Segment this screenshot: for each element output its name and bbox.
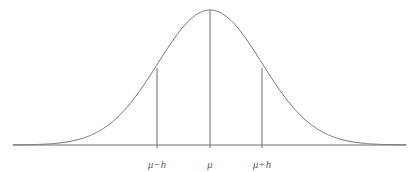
axis-tick-label-mu: μ: [207, 159, 212, 170]
axis-tick-label-mu-plus-h: μ+h: [253, 159, 271, 170]
axis-tick-label-mu-minus-h: μ−h: [148, 159, 166, 170]
normal-curve-figure: μ−h μ μ+h: [0, 0, 417, 172]
normal-curve-plot: [0, 0, 417, 172]
ordinate-group: [157, 10, 262, 148]
